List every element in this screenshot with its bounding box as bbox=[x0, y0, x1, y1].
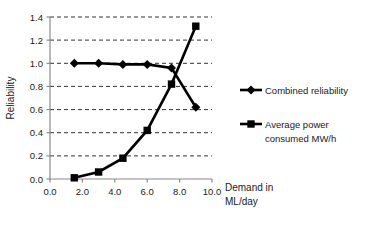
data-point-marker bbox=[168, 80, 175, 87]
x-axis-title-line1: Demand in bbox=[225, 182, 273, 193]
x-tick-label: 4.0 bbox=[108, 186, 121, 197]
legend-label-average-power-line1: Average power bbox=[265, 119, 329, 130]
legend-item-average-power[interactable]: Average power consumed MW/h bbox=[240, 119, 336, 144]
x-tick-label: 10.0 bbox=[203, 186, 222, 197]
y-tick-label: 0.2 bbox=[30, 150, 43, 161]
x-tick-label: 0.0 bbox=[43, 186, 56, 197]
square-marker-icon bbox=[247, 120, 254, 127]
y-tick-labels: 1.4 1.2 1.0 0.8 0.6 0.4 0.2 0.0 bbox=[30, 12, 43, 185]
y-axis-title: Reliability bbox=[5, 77, 16, 120]
data-point-marker bbox=[71, 174, 78, 181]
y-tick-label: 1.4 bbox=[30, 12, 43, 23]
data-point-marker bbox=[119, 155, 126, 162]
legend-label-combined-reliability: Combined reliability bbox=[265, 85, 348, 96]
diamond-marker-icon bbox=[247, 86, 256, 95]
y-tick-label: 1.2 bbox=[30, 35, 43, 46]
x-tick-labels: 0.0 2.0 4.0 6.0 8.0 10.0 bbox=[43, 186, 221, 197]
y-tick-label: 0.0 bbox=[30, 174, 43, 185]
data-point-marker bbox=[192, 23, 199, 30]
x-tick-label: 8.0 bbox=[173, 186, 186, 197]
x-tick-label: 6.0 bbox=[141, 186, 154, 197]
y-tick-label: 0.6 bbox=[30, 104, 43, 115]
reliability-demand-line-chart: 1.4 1.2 1.0 0.8 0.6 0.4 0.2 0.0 0.0 2.0 … bbox=[0, 0, 373, 225]
y-tick-label: 0.8 bbox=[30, 81, 43, 92]
chart-legend: Combined reliability Average power consu… bbox=[240, 85, 348, 144]
x-axis-title-line2: ML/day bbox=[225, 196, 258, 207]
y-tick-label: 1.0 bbox=[30, 58, 43, 69]
legend-label-average-power-line2: consumed MW/h bbox=[265, 133, 336, 144]
chart-container: 1.4 1.2 1.0 0.8 0.6 0.4 0.2 0.0 0.0 2.0 … bbox=[0, 0, 373, 225]
plot-area-background bbox=[50, 17, 212, 179]
x-tick-label: 2.0 bbox=[76, 186, 89, 197]
y-tick-label: 0.4 bbox=[30, 127, 43, 138]
data-point-marker bbox=[144, 127, 151, 134]
data-point-marker bbox=[95, 168, 102, 175]
legend-item-combined-reliability[interactable]: Combined reliability bbox=[240, 85, 348, 96]
